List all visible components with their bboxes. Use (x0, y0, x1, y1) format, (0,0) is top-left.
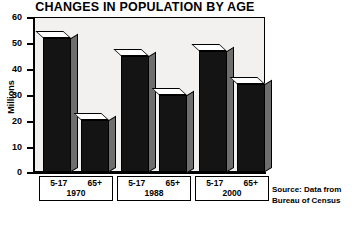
bar-side-face (187, 90, 194, 172)
bar-1970-65plus (81, 120, 109, 172)
source-line-1: Source: Data from (272, 185, 356, 196)
bar-2000-65plus (237, 84, 265, 172)
bar-top-face (229, 77, 265, 84)
bar-top-face (191, 44, 227, 51)
group-2000-cat-65plus: 65+ (243, 178, 257, 188)
bar-front-face (159, 95, 187, 173)
bar-1988-5-17 (121, 56, 149, 172)
group-2000-cat-5-17: 5-17 (206, 178, 223, 188)
bar-side-face (109, 116, 116, 172)
group-1970-year: 1970 (40, 188, 112, 198)
group-1988-cat-5-17: 5-17 (128, 178, 145, 188)
bar-front-face (121, 56, 149, 172)
bar-1988-65plus (159, 95, 187, 173)
bar-side-face (149, 51, 156, 172)
group-1988-year: 1988 (118, 188, 190, 198)
bar-chart: CHANGES IN POPULATION BY AGE Millions 60… (0, 0, 356, 225)
bar-front-face (43, 38, 71, 172)
group-1970-cat-5-17: 5-17 (50, 178, 67, 188)
bar-side-face (71, 33, 78, 172)
group-1988-cat-65plus: 65+ (165, 178, 179, 188)
bar-top-face (113, 49, 149, 56)
bar-1970-5-17 (43, 38, 71, 172)
bar-front-face (237, 84, 265, 172)
bar-front-face (199, 51, 227, 172)
group-label-1988: 5-17 65+ 1988 (117, 176, 191, 201)
source-line-2: Bureau of Census (272, 196, 356, 207)
bar-top-face (73, 113, 109, 120)
group-2000-year: 2000 (196, 188, 268, 198)
group-label-1970: 5-17 65+ 1970 (39, 176, 113, 201)
group-label-2000: 5-17 65+ 2000 (195, 176, 269, 201)
bar-top-face (35, 31, 71, 38)
bar-top-face (151, 88, 187, 95)
bar-side-face (265, 80, 272, 172)
bar-front-face (81, 120, 109, 172)
bar-2000-5-17 (199, 51, 227, 172)
source-note: Source: Data from Bureau of Census (272, 185, 356, 206)
group-1970-cat-65plus: 65+ (87, 178, 101, 188)
bar-side-face (227, 46, 234, 172)
